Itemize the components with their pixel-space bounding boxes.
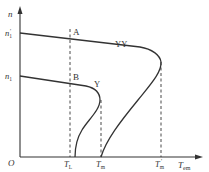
y-axis-label: n bbox=[8, 9, 13, 19]
x-axis bbox=[20, 155, 203, 160]
curve-YY bbox=[20, 33, 161, 157]
curve-YY-label: YY bbox=[115, 39, 127, 49]
y-tick-n1: n1 bbox=[5, 71, 12, 82]
origin-label: O bbox=[8, 158, 15, 168]
y-tick-n1-prime: n1' bbox=[5, 28, 12, 39]
curve-Y bbox=[20, 76, 100, 157]
x-axis-label: Tem bbox=[178, 160, 191, 171]
torque-speed-diagram: n O Tem n1' n1 TL Tm Tm' A B YY Y bbox=[0, 0, 209, 172]
curve-Y-label: Y bbox=[94, 79, 100, 89]
point-A-label: A bbox=[73, 27, 80, 37]
x-tick-TL: TL bbox=[64, 159, 73, 170]
point-B-label: B bbox=[73, 72, 79, 82]
y-axis bbox=[18, 6, 23, 157]
y-axis-arrow-icon bbox=[18, 6, 23, 14]
x-tick-Tm: Tm bbox=[96, 159, 106, 170]
x-tick-Tm-prime: Tm' bbox=[155, 158, 165, 170]
x-axis-arrow-icon bbox=[195, 155, 203, 160]
